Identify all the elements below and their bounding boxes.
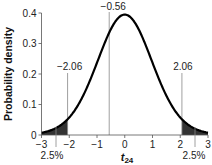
x-tick-label: −2	[64, 139, 76, 150]
x-tick-label: 3	[205, 139, 211, 150]
x-axis-label: t24	[121, 151, 134, 165]
y-tick-label: 0.4	[23, 8, 37, 19]
x-tick-label: 0	[122, 139, 128, 150]
y-tick-label: 0.1	[23, 99, 37, 110]
y-tick-label: 0.3	[23, 38, 37, 49]
y-axis-label: Probability density	[2, 27, 14, 121]
tail-percent-label-left: 2.5%	[41, 150, 64, 161]
y-tick-label: 0.2	[23, 69, 37, 80]
x-tick-label: −1	[91, 139, 103, 150]
density-curve	[42, 15, 209, 133]
x-tick-label: 2	[177, 139, 183, 150]
critical-value-label-positive: 2.06	[173, 61, 193, 72]
x-tick-label: 1	[150, 139, 156, 150]
t-distribution-chart: 00.10.20.30.4−3−2−10123 −2.06 2.06 −0.56…	[0, 0, 212, 165]
critical-value-label-negative: −2.06	[57, 61, 83, 72]
observed-t-label: −0.56	[101, 1, 127, 12]
tail-percent-label-right: 2.5%	[183, 150, 206, 161]
x-tick-label: −3	[36, 139, 48, 150]
